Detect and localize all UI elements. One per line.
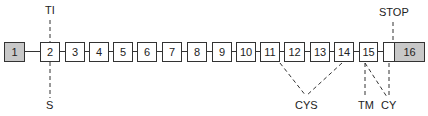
exon-box: 16 [394,42,425,62]
exon-box: 8 [187,42,207,62]
exon-box: 11 [260,42,280,62]
exon-box: 5 [113,42,133,62]
label-tm: TM [358,99,374,111]
exon-box: 6 [137,42,157,62]
exon-box: 12 [284,42,305,62]
exon-box: 9 [212,42,232,62]
exon-box: 15 [359,42,378,62]
label-cys: CYS [295,99,318,111]
exon-box: 10 [236,42,256,62]
exon-box: 2 [40,42,60,62]
label-cy: CY [381,99,396,111]
exon-box: 3 [65,42,85,62]
exon-diagram: 1 2 3 4 5 6 7 8 9 10 11 12 13 14 15 16 T… [0,0,428,116]
label-s: S [46,99,53,111]
label-ti: TI [45,4,55,16]
exon-box: 13 [310,42,330,62]
label-stop: STOP [379,6,409,18]
exon-box: 4 [89,42,109,62]
exon-box: 14 [334,42,354,62]
exon-box: 7 [162,42,182,62]
exon-box: 1 [4,42,25,62]
intron-connector [25,51,40,52]
